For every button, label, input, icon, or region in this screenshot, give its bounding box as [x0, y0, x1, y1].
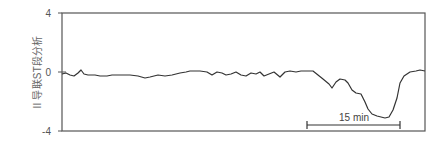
plot-frame [62, 13, 425, 131]
st-chart: 4 0 -4 15 min [0, 0, 446, 144]
y-tick-label-top: 4 [45, 8, 51, 19]
scale-bar-label: 15 min [339, 112, 369, 123]
y-tick-label-bottom: -4 [42, 126, 51, 137]
y-tick-label-zero: 0 [45, 67, 51, 78]
st-trace-line [62, 70, 425, 118]
